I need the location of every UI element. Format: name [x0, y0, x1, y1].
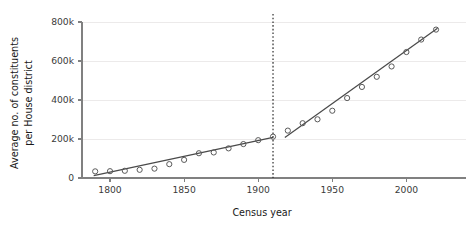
x-tick-label-1850: 1850 — [172, 184, 196, 195]
plot-axes-group — [78, 22, 466, 182]
chart-figure: 0200k400k600k800k 18001850190019502000 C… — [0, 0, 472, 226]
x-axis-title: Census year — [232, 207, 291, 218]
trend-line-post-1910-trend — [285, 28, 438, 137]
x-tick-label-2000: 2000 — [395, 184, 419, 195]
trend-lines-group — [94, 28, 438, 175]
data-point — [330, 108, 335, 113]
x-tick-label-1950: 1950 — [321, 184, 345, 195]
data-point — [137, 167, 142, 172]
y-tick-labels-group: 0200k400k600k800k — [51, 16, 75, 183]
scatter-plot-canvas: 0200k400k600k800k 18001850190019502000 C… — [0, 0, 472, 226]
data-point — [374, 74, 379, 79]
data-point — [182, 157, 187, 162]
data-point — [167, 162, 172, 167]
x-tick-label-1900: 1900 — [247, 184, 271, 195]
y-axis-title-line2: per House district — [23, 60, 34, 146]
y-tick-label-800k: 800k — [51, 16, 75, 27]
data-point — [389, 64, 394, 69]
y-tick-label-600k: 600k — [51, 55, 75, 66]
data-point — [93, 169, 98, 174]
data-point — [359, 84, 364, 89]
y-tick-label-0: 0 — [68, 172, 74, 183]
y-axis-title-line1: Average no. of constituents — [9, 37, 20, 169]
y-tick-label-200k: 200k — [51, 133, 75, 144]
x-tick-label-1800: 1800 — [98, 184, 122, 195]
data-point — [285, 128, 290, 133]
data-point — [315, 117, 320, 122]
data-point — [152, 166, 157, 171]
x-tick-labels-group: 18001850190019502000 — [98, 184, 418, 195]
gridlines-group — [82, 22, 466, 139]
y-tick-label-400k: 400k — [51, 94, 75, 105]
